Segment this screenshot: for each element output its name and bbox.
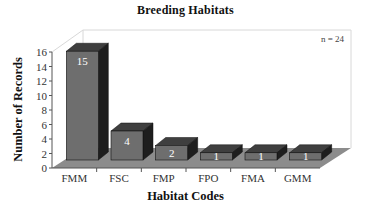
- bar-fsc: 4: [111, 123, 153, 160]
- y-tick-label: 0: [42, 162, 48, 174]
- bar-value-label: 2: [169, 147, 175, 159]
- x-tick-label: FMM: [61, 172, 87, 184]
- x-tick-label: FSC: [109, 172, 129, 184]
- y-tick-label: 16: [36, 46, 48, 58]
- y-tick-label: 12: [36, 75, 47, 87]
- y-tick-label: 14: [36, 61, 48, 73]
- x-tick-label: FMA: [241, 172, 265, 184]
- x-axis: FMMFSCFMPFPOFMAGMM: [52, 168, 320, 184]
- y-tick-label: 6: [42, 119, 48, 131]
- bar-value-label: 4: [124, 135, 130, 147]
- y-tick-label: 4: [42, 133, 48, 145]
- bar-fmp: 2: [156, 138, 198, 161]
- bar-value-label: 1: [258, 150, 264, 162]
- y-axis: 0246810121416: [36, 46, 52, 174]
- y-tick-label: 2: [42, 148, 48, 160]
- y-tick-label: 10: [36, 90, 48, 102]
- bar-value-label: 1: [214, 150, 220, 162]
- x-tick-label: FMP: [153, 172, 175, 184]
- x-tick-label: GMM: [284, 172, 312, 184]
- bar-value-label: 15: [77, 55, 89, 67]
- x-tick-label: FPO: [198, 172, 218, 184]
- bar-fmm: 15: [66, 43, 108, 160]
- bar-chart-plot: 0246810121416 FMMFSCFMPFPOFMAGMM 1542111…: [0, 0, 371, 216]
- y-tick-label: 8: [42, 104, 48, 116]
- bars: 1542111: [66, 43, 331, 162]
- bar-value-label: 1: [303, 150, 309, 162]
- sample-size-annotation: n = 24: [321, 34, 345, 44]
